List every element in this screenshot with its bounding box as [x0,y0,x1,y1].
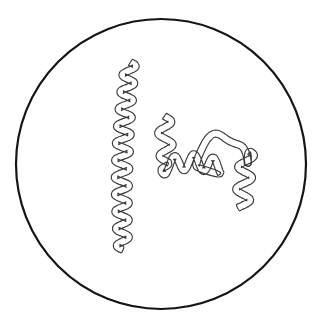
illustration-canvas [0,0,326,328]
petri-dish-circle [16,19,306,309]
spirochete-illustration [0,0,326,328]
